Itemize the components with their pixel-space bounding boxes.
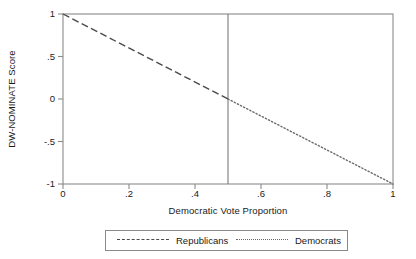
plot-canvas — [0, 0, 416, 259]
dotted-line-key-icon — [236, 239, 288, 242]
series-line-democrats — [228, 99, 393, 184]
dashed-line-key-icon — [117, 239, 169, 242]
chart-figure: DW-NOMINATE Score 1 .5 0 -.5 -1 0 .2 .4 … — [0, 0, 416, 259]
legend-entry-republicans: Republicans — [117, 231, 228, 250]
series-line-republicans — [63, 14, 228, 99]
x-axis-title: Democratic Vote Proportion — [63, 205, 393, 216]
legend-entry-democrats: Democrats — [236, 231, 341, 250]
chart-legend: Republicans Democrats — [105, 230, 348, 251]
legend-label-democrats: Democrats — [295, 235, 341, 246]
legend-label-republicans: Republicans — [176, 235, 228, 246]
